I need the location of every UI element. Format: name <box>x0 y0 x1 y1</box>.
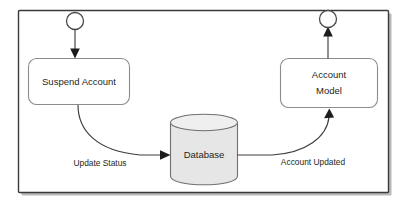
node-account-model[interactable] <box>281 59 378 108</box>
node-account-model-label-line1: Account <box>312 69 347 80</box>
end-node-circle[interactable] <box>320 11 337 28</box>
node-database-label: Database <box>184 149 225 160</box>
start-node-circle[interactable] <box>67 13 84 30</box>
node-account-model-label-line2: Model <box>316 85 342 96</box>
edge-label-update-status: Update Status <box>73 158 126 168</box>
edge-label-account-updated: Account Updated <box>281 157 346 167</box>
node-suspend-account-label: Suspend Account <box>42 76 116 87</box>
diagram-canvas: Suspend Account Update Status Database A… <box>0 0 406 204</box>
node-database-top-ellipse <box>171 114 238 130</box>
flow-diagram: Suspend Account Update Status Database A… <box>0 0 406 204</box>
